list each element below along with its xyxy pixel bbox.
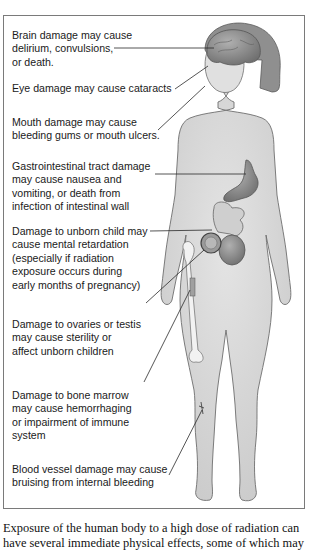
label-marrow: Damage to bone marrow may cause hemorrha…: [12, 389, 132, 443]
label-ovaries: Damage to ovaries or testis may cause st…: [12, 318, 141, 358]
caption-line: Exposure of the human body to a high dos…: [3, 521, 315, 536]
label-line: bruising from internal bleeding: [12, 476, 167, 489]
label-line: Damage to ovaries or testis: [12, 318, 141, 331]
label-line: system: [12, 429, 132, 442]
label-line: infection of intestinal wall: [12, 200, 150, 213]
label-line: Brain damage may cause: [12, 29, 132, 42]
label-line: cause mental retardation: [12, 238, 147, 251]
label-line: Blood vessel damage may cause: [12, 463, 167, 476]
label-line: delirium, convulsions,: [12, 42, 132, 55]
label-line: early months of pregnancy): [12, 279, 147, 292]
label-line: affect unborn children: [12, 345, 141, 358]
label-line: Damage to bone marrow: [12, 389, 132, 402]
label-mouth: Mouth damage may cause bleeding gums or …: [12, 116, 160, 143]
body-silhouette: [161, 80, 291, 501]
label-line: Mouth damage may cause: [12, 116, 160, 129]
label-line: exposure occurs during: [12, 265, 147, 278]
label-line: bleeding gums or mouth ulcers.: [12, 129, 160, 142]
label-line: Eye damage may cause cataracts: [12, 82, 172, 95]
label-line: or death.: [12, 56, 132, 69]
label-line: vomiting, or death from: [12, 187, 150, 200]
label-unborn: Damage to unborn child may cause mental …: [12, 225, 147, 292]
figure-caption: Exposure of the human body to a high dos…: [3, 521, 315, 550]
label-line: Gastrointestinal tract damage: [12, 160, 150, 173]
label-line: (especially if radiation: [12, 252, 147, 265]
label-line: or impairment of immune: [12, 416, 132, 429]
label-line: may cause nausea and: [12, 173, 150, 186]
label-vessel: Blood vessel damage may cause bruising f…: [12, 463, 167, 490]
brain-organ: [207, 30, 260, 65]
label-line: may cause hemorrhaging: [12, 402, 132, 415]
label-line: may cause sterility or: [12, 331, 141, 344]
label-eye: Eye damage may cause cataracts: [12, 82, 172, 95]
label-gi: Gastrointestinal tract damage may cause …: [12, 160, 150, 214]
leader-eye: [175, 66, 208, 89]
label-line: Damage to unborn child may: [12, 225, 147, 238]
label-brain: Brain damage may cause delirium, convuls…: [12, 29, 132, 69]
caption-line: have several immediate physical effects,…: [3, 536, 315, 550]
